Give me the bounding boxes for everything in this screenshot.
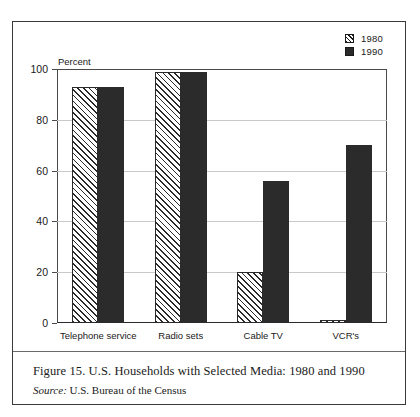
bar-1980-radio-sets <box>155 72 181 323</box>
bar-1990-telephone-service <box>98 87 124 323</box>
source-text: U.S. Bureau of the Census <box>70 384 187 396</box>
legend-label-1980: 1980 <box>361 33 383 44</box>
hatched-square-icon <box>345 34 354 43</box>
source-line: Source: U.S. Bureau of the Census <box>33 382 391 398</box>
legend-item-1980: 1980 <box>345 32 383 45</box>
y-tick-label: 40 <box>36 215 48 227</box>
y-tick-mark <box>52 171 57 172</box>
caption-divider <box>13 351 405 352</box>
y-axis-title: Percent <box>58 56 91 67</box>
y-tick-mark <box>52 69 57 70</box>
y-tick-label: 60 <box>36 165 48 177</box>
figure-frame: 1980 1990 Percent 020406080100 Telephone… <box>12 21 406 405</box>
y-tick-label: 80 <box>36 114 48 126</box>
figure-caption: Figure 15. U.S. Households with Selected… <box>33 363 391 380</box>
y-tick-label: 20 <box>36 266 48 278</box>
x-axis-label: Telephone service <box>60 330 137 341</box>
y-tick-mark <box>52 323 57 324</box>
source-label: Source: <box>33 384 67 396</box>
x-axis-label: Radio sets <box>158 330 203 341</box>
legend-label-1990: 1990 <box>361 46 383 57</box>
y-tick-label: 0 <box>42 317 48 329</box>
y-tick-mark <box>52 221 57 222</box>
bar-1980-vcr-s <box>320 320 346 323</box>
solid-square-icon <box>345 47 354 56</box>
y-tick-mark <box>52 120 57 121</box>
y-tick-label: 100 <box>30 63 48 75</box>
legend-item-1990: 1990 <box>345 45 383 58</box>
plot-area: 020406080100 Telephone serviceRadio sets… <box>57 69 387 323</box>
x-axis-label: VCR's <box>332 330 359 341</box>
caption: Figure 15. U.S. Households with Selected… <box>33 363 391 398</box>
bar-1980-telephone-service <box>72 87 98 323</box>
bar-1990-cable-tv <box>263 181 289 323</box>
bar-1990-vcr-s <box>346 145 372 323</box>
x-axis-label: Cable TV <box>244 330 283 341</box>
bar-1980-cable-tv <box>237 272 263 323</box>
y-tick-mark <box>52 272 57 273</box>
bar-1990-radio-sets <box>181 72 207 323</box>
chart-legend: 1980 1990 <box>345 32 383 58</box>
